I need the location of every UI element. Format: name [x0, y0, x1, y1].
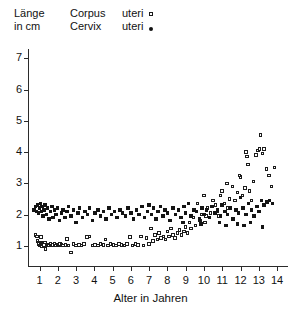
- data-point-corpus: [195, 210, 199, 214]
- data-point-cervix: [37, 211, 41, 215]
- data-point-cervix: [205, 208, 209, 212]
- data-point-corpus: [198, 219, 202, 223]
- data-point-corpus: [61, 244, 65, 248]
- data-point-cervix: [72, 208, 76, 212]
- data-point-corpus: [57, 244, 61, 248]
- x-axis-tick: [58, 266, 59, 271]
- data-point-corpus: [149, 227, 153, 231]
- data-point-corpus: [69, 251, 73, 255]
- data-point-corpus: [204, 214, 208, 218]
- data-point-corpus: [256, 149, 260, 153]
- data-point-corpus: [85, 235, 89, 239]
- data-point-cervix: [99, 214, 103, 218]
- data-point-corpus: [254, 153, 258, 157]
- data-point-cervix: [67, 205, 71, 209]
- data-point-corpus: [53, 242, 57, 246]
- x-axis-tick-label: 5: [103, 274, 123, 286]
- x-axis-tick: [149, 266, 150, 271]
- x-axis-tick: [76, 266, 77, 271]
- data-point-corpus: [39, 235, 43, 239]
- data-point-cervix: [140, 205, 144, 209]
- data-point-corpus: [58, 242, 62, 246]
- data-point-corpus: [188, 221, 192, 225]
- data-point-cervix: [41, 214, 45, 218]
- figure-root: Länge in cm Corpusuteri Cervixuteri 1234…: [0, 0, 301, 321]
- data-point-cervix: [154, 217, 158, 221]
- data-point-cervix: [250, 208, 254, 212]
- data-point-corpus: [200, 213, 204, 217]
- data-point-corpus: [203, 221, 207, 225]
- data-point-corpus: [244, 150, 248, 154]
- data-point-cervix: [88, 206, 92, 210]
- data-point-cervix: [69, 214, 73, 218]
- data-point-cervix: [58, 219, 62, 223]
- data-point-cervix: [49, 210, 53, 214]
- data-point-cervix: [163, 208, 167, 212]
- data-point-cervix: [198, 217, 202, 221]
- data-point-cervix: [124, 214, 128, 218]
- data-point-cervix: [195, 210, 199, 214]
- data-point-corpus: [114, 244, 118, 248]
- data-point-cervix: [104, 217, 108, 221]
- data-point-corpus: [262, 147, 266, 151]
- data-point-corpus: [167, 235, 171, 239]
- data-point-cervix: [262, 203, 266, 207]
- data-point-corpus: [259, 133, 263, 137]
- data-point-corpus: [238, 174, 242, 178]
- data-point-cervix: [236, 222, 240, 226]
- data-point-cervix: [220, 203, 224, 207]
- data-point-corpus: [37, 242, 41, 246]
- data-point-corpus: [225, 182, 229, 186]
- y-axis-tick-label: 6: [8, 84, 22, 95]
- data-point-corpus: [60, 243, 64, 247]
- data-point-corpus: [128, 235, 132, 239]
- y-axis-tick-label-wrap: 7: [4, 52, 22, 63]
- data-point-corpus: [145, 236, 149, 240]
- data-point-corpus: [139, 235, 143, 239]
- x-axis-tick: [113, 266, 114, 271]
- data-point-cervix: [54, 213, 58, 217]
- data-point-cervix: [74, 221, 78, 225]
- data-point-cervix: [61, 208, 65, 212]
- data-point-corpus: [45, 244, 49, 248]
- data-point-corpus: [51, 243, 55, 247]
- data-point-corpus: [216, 210, 220, 214]
- data-point-corpus: [67, 244, 71, 248]
- x-axis-tick-label: 13: [249, 274, 269, 286]
- data-point-cervix: [231, 217, 235, 221]
- data-point-corpus: [250, 199, 254, 203]
- x-axis-tick-label: 3: [66, 274, 86, 286]
- data-points-layer: [0, 0, 301, 321]
- data-point-cervix: [93, 211, 97, 215]
- data-point-corpus: [109, 242, 113, 246]
- data-point-cervix: [43, 203, 47, 207]
- data-point-corpus: [246, 163, 250, 167]
- data-point-cervix: [223, 210, 227, 214]
- data-point-cervix: [51, 216, 55, 220]
- data-point-cervix: [135, 208, 139, 212]
- y-axis-tick: [24, 152, 29, 153]
- data-point-cervix: [244, 213, 248, 217]
- data-point-cervix: [91, 219, 95, 223]
- x-axis-tick-label: 6: [121, 274, 141, 286]
- y-axis-tick-label: 1: [8, 240, 22, 251]
- data-point-cervix: [218, 221, 222, 225]
- data-point-corpus: [223, 202, 227, 206]
- data-point-cervix: [63, 216, 67, 220]
- data-point-cervix: [242, 224, 246, 228]
- data-point-corpus: [159, 236, 163, 240]
- data-point-cervix: [229, 206, 233, 210]
- plot-area: 1234567 1234567891011121314 Alter in Jah…: [0, 0, 301, 321]
- x-axis-tick-label: 12: [231, 274, 251, 286]
- data-point-corpus: [233, 199, 237, 203]
- data-point-cervix: [187, 202, 191, 206]
- data-point-cervix: [179, 216, 183, 220]
- data-point-cervix: [216, 208, 220, 212]
- x-axis-tick: [131, 266, 132, 271]
- data-point-cervix: [168, 219, 172, 223]
- data-point-corpus: [99, 242, 103, 246]
- data-point-cervix: [152, 206, 156, 210]
- data-point-corpus: [35, 235, 39, 239]
- data-point-cervix: [252, 214, 256, 218]
- data-point-corpus: [206, 206, 210, 210]
